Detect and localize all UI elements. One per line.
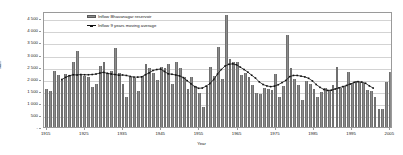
legend-bar-swatch-icon [87, 15, 96, 19]
y-axis-tick-label: 3 500 [27, 41, 38, 45]
moving-average-marker [319, 87, 321, 89]
moving-average-marker [346, 85, 348, 87]
moving-average-marker [308, 78, 310, 80]
moving-average-marker [118, 74, 120, 76]
x-axis-tick-label: 1995 [346, 132, 356, 136]
y-axis-tick-label: 3 000 [27, 53, 38, 57]
x-axis-tick-label: 1955 [194, 132, 204, 136]
legend-item-line: Inflow 9 years moving average [87, 23, 156, 28]
x-axis-tick-mark [122, 128, 123, 130]
moving-average-marker [148, 72, 150, 74]
moving-average-marker [99, 72, 101, 74]
moving-average-marker [228, 64, 230, 66]
moving-average-marker [353, 82, 355, 84]
moving-average-marker [72, 74, 74, 76]
moving-average-marker [156, 69, 158, 71]
x-axis-tick-mark [275, 128, 276, 130]
moving-average-marker [76, 74, 78, 76]
moving-average-marker [266, 85, 268, 87]
y-axis-tick-mark [39, 19, 41, 20]
x-axis-tick-label: 1925 [79, 132, 89, 136]
moving-average-marker [61, 79, 63, 81]
moving-average-marker [274, 85, 276, 87]
x-axis-tick-label: 1975 [270, 132, 280, 136]
y-axis-tick-label: - [37, 126, 38, 130]
y-axis-tick-mark [39, 43, 41, 44]
x-axis-tick-mark [46, 128, 47, 130]
moving-average-marker [296, 75, 298, 77]
moving-average-marker [164, 71, 166, 73]
x-axis-tick-mark [351, 128, 352, 130]
y-axis-tick-label: 1 000 [27, 102, 38, 106]
moving-average-marker [122, 74, 124, 76]
y-axis: -5001 0001 5002 0002 5003 0003 5004 0004… [0, 12, 41, 128]
moving-average-path [62, 64, 373, 91]
moving-average-marker [145, 74, 147, 76]
moving-average-marker [372, 87, 374, 89]
y-axis-title: Mm³ [0, 60, 2, 69]
x-axis-tick-label: 1945 [155, 132, 165, 136]
moving-average-marker [129, 76, 131, 78]
y-axis-tick-label: 4 500 [27, 17, 38, 21]
moving-average-marker [213, 79, 215, 81]
moving-average-marker [342, 86, 344, 88]
moving-average-marker [221, 69, 223, 71]
moving-average-marker [126, 75, 128, 77]
moving-average-marker [65, 77, 67, 79]
moving-average-marker [110, 73, 112, 75]
x-axis-title: Year [0, 142, 403, 146]
y-axis-tick-label: 1 500 [27, 90, 38, 94]
moving-average-marker [69, 75, 71, 77]
moving-average-marker [277, 84, 279, 86]
moving-average-marker [285, 80, 287, 82]
moving-average-marker [103, 72, 105, 74]
x-axis-tick-mark [237, 128, 238, 130]
moving-average-markers [61, 63, 374, 91]
moving-average-marker [160, 68, 162, 70]
moving-average-marker [255, 77, 257, 79]
y-axis-tick-mark [39, 128, 41, 129]
x-axis-tick-mark [313, 128, 314, 130]
moving-average-marker [88, 74, 90, 76]
moving-average-marker [365, 83, 367, 85]
y-axis-tick-mark [39, 116, 41, 117]
moving-average-marker [312, 80, 314, 82]
x-axis-tick-mark [198, 128, 199, 130]
moving-average-marker [361, 81, 363, 83]
moving-average-marker [152, 70, 154, 72]
moving-average-marker [350, 83, 352, 85]
moving-average-marker [183, 77, 185, 79]
moving-average-marker [175, 74, 177, 76]
y-axis-tick-label: 2 000 [27, 78, 38, 82]
moving-average-marker [179, 75, 181, 77]
moving-average-marker [323, 89, 325, 91]
moving-average-marker [107, 73, 109, 75]
legend-bar-label: Inflow Bhavanagar reservoir [98, 14, 152, 19]
y-axis-tick-label: 4 000 [27, 29, 38, 33]
moving-average-marker [289, 76, 291, 78]
x-axis-tick-label: 2005 [385, 132, 395, 136]
x-axis-tick-label: 1935 [117, 132, 127, 136]
moving-average-marker [232, 63, 234, 65]
y-axis-tick-mark [39, 31, 41, 32]
moving-average-marker [171, 73, 173, 75]
moving-average-marker [80, 74, 82, 76]
x-axis-tick-label: 1915 [41, 132, 51, 136]
x-axis-tick-mark [389, 128, 390, 130]
legend-line-label: Inflow 9 years moving average [98, 23, 156, 28]
moving-average-marker [137, 76, 139, 78]
moving-average-marker [198, 88, 200, 90]
x-axis-tick-label: 1985 [308, 132, 318, 136]
y-axis-tick-mark [39, 80, 41, 81]
moving-average-marker [304, 76, 306, 78]
moving-average-marker [300, 75, 302, 77]
moving-average-marker [334, 88, 336, 90]
moving-average-marker [258, 81, 260, 83]
chart-figure: -5001 0001 5002 0002 5003 0003 5004 0004… [0, 0, 403, 155]
moving-average-marker [114, 74, 116, 76]
moving-average-marker [236, 64, 238, 66]
moving-average-marker [331, 89, 333, 91]
y-axis-tick-label: 2 500 [27, 65, 38, 69]
moving-average-marker [91, 74, 93, 76]
moving-average-marker [186, 80, 188, 82]
